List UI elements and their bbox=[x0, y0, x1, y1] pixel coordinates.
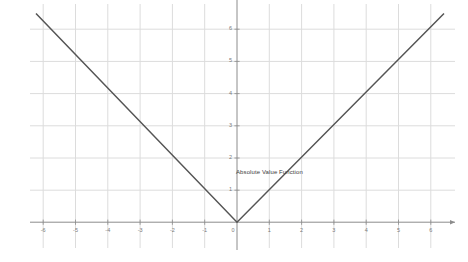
x-axis-arrow-icon bbox=[450, 220, 455, 225]
x-tick-label: 1 bbox=[268, 228, 271, 234]
chart-annotation: Absolute Value Function bbox=[236, 169, 303, 175]
y-tick-label: 2 bbox=[224, 155, 232, 161]
x-tick-label: -3 bbox=[138, 228, 143, 234]
x-tick-label: -5 bbox=[73, 228, 78, 234]
x-tick-label: -4 bbox=[105, 228, 110, 234]
absolute-value-function-chart: -6 -5 -4 -3 -2 -1 0 1 2 3 4 5 6 1 2 3 4 … bbox=[0, 0, 468, 262]
x-axis bbox=[30, 220, 455, 225]
horizontal-gridlines bbox=[30, 29, 455, 190]
x-tick-label: 2 bbox=[300, 228, 303, 234]
x-tick-label: -1 bbox=[202, 228, 207, 234]
y-tick-label: 5 bbox=[224, 59, 232, 65]
y-tick-label: 3 bbox=[224, 123, 232, 129]
x-tick-label: 5 bbox=[397, 228, 400, 234]
y-tick-label: 4 bbox=[224, 91, 232, 97]
data-series-absolute-value bbox=[36, 14, 444, 223]
x-tick-label: -2 bbox=[170, 228, 175, 234]
y-tick-label: 1 bbox=[224, 187, 232, 193]
x-tick-label: 6 bbox=[429, 228, 432, 234]
x-tick-label: -6 bbox=[41, 228, 46, 234]
x-tick-label: 3 bbox=[332, 228, 335, 234]
x-tick-label-origin: 0 bbox=[231, 228, 234, 234]
x-tick-label: 4 bbox=[365, 228, 368, 234]
plot-area bbox=[0, 0, 468, 262]
y-tick-label: 6 bbox=[224, 26, 232, 32]
